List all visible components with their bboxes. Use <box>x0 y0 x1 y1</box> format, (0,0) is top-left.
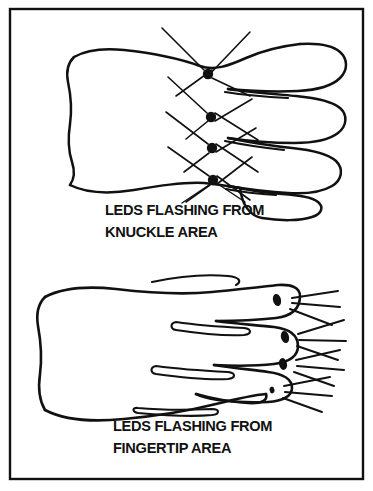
knuckle-caption-line1: LEDS FLASHING FROM <box>105 202 264 218</box>
knuckle-caption-line2: KNUCKLE AREA <box>105 224 218 240</box>
led-dot <box>208 175 218 185</box>
led-dot <box>206 112 216 122</box>
figure-root: LEDS FLASHING FROM KNUCKLE AREA <box>0 0 373 491</box>
fingertip-caption-line2: FINGERTIP AREA <box>113 440 232 456</box>
fingertip-caption-line1: LEDS FLASHING FROM <box>113 418 272 434</box>
flash-ray <box>299 340 346 341</box>
led-dot <box>207 143 217 153</box>
led-glove-figure: LEDS FLASHING FROM KNUCKLE AREA <box>0 0 373 491</box>
led-dot <box>203 69 213 79</box>
